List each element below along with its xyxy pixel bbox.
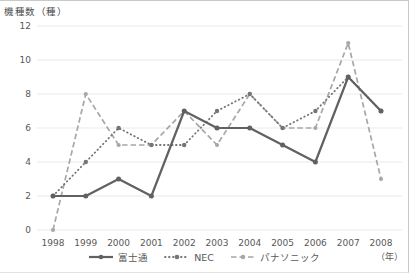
legend-marker-sample [99,255,104,260]
legend-item-nec: NEC [164,252,214,263]
y-tick-label: 8 [25,89,31,99]
data-point-marker [116,177,121,182]
x-tick-label: 2001 [140,238,163,248]
legend-marker-sample [241,255,246,260]
data-point-marker [379,109,384,114]
data-point-marker [280,126,284,130]
x-tick-label: 2003 [206,238,229,248]
data-point-marker [313,160,318,165]
y-tick-label: 2 [25,191,31,201]
legend-label-nec: NEC [194,252,214,263]
x-tick-label: 2000 [107,238,130,248]
data-point-marker [117,143,121,147]
data-point-marker [215,143,219,147]
x-tick-label: 2002 [173,238,196,248]
legend-marker-sample [175,255,180,260]
legend-label-fujitsu: 富士通 [118,250,148,264]
data-point-marker [248,92,252,96]
data-point-marker [215,109,219,113]
data-point-marker [313,109,317,113]
legend-label-panasonic: パナソニック [260,250,320,264]
legend: 富士通 NEC パナソニック [30,249,378,265]
data-point-marker [83,194,88,199]
y-tick-label: 6 [25,123,31,133]
x-tick-label: 2007 [337,238,360,248]
x-axis-unit-label: （年） [376,250,403,263]
chart-canvas: 機種数（種） 024681012199819992000200120022003… [0,0,409,273]
data-point-marker [84,160,88,164]
data-point-marker [379,177,383,181]
data-point-marker [51,228,55,232]
plot-area: 0246810121998199920002001200220032004200… [0,1,409,248]
data-point-marker [346,41,350,45]
legend-item-fujitsu: 富士通 [88,250,148,264]
legend-line-icon-nec [164,252,190,262]
y-tick-label: 4 [25,157,31,167]
data-point-marker [313,126,317,130]
y-tick-label: 10 [20,55,32,65]
data-point-marker [280,143,285,148]
y-tick-label: 0 [25,225,31,235]
x-tick-label: 2004 [238,238,261,248]
data-point-marker [182,143,186,147]
data-point-marker [346,75,351,80]
data-point-marker [116,126,120,130]
x-tick-label: 2006 [304,238,327,248]
data-point-marker [149,143,153,147]
series-line [53,77,381,196]
y-tick-label: 12 [20,21,31,31]
legend-line-icon-fujitsu [88,252,114,262]
data-point-marker [149,194,154,199]
data-point-marker [247,126,252,131]
data-point-marker [84,92,88,96]
x-tick-label: 2008 [370,238,393,248]
x-tick-label: 2005 [271,238,294,248]
x-tick-label: 1998 [42,238,65,248]
series-line [53,43,381,230]
data-point-marker [215,126,220,131]
data-point-marker [51,194,56,199]
legend-item-panasonic: パナソニック [230,250,320,264]
x-tick-label: 1999 [74,238,97,248]
legend-line-icon-panasonic [230,252,256,262]
data-point-marker [182,109,187,114]
